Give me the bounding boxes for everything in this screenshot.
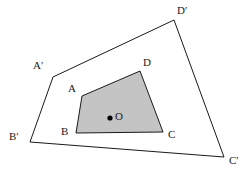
geometry-figure: A′ B′ C′ D′ A B C D O — [0, 0, 246, 175]
vertex-label-a: A — [68, 83, 76, 94]
vertex-label-c-prime: C′ — [229, 155, 239, 166]
vertex-label-d: D — [143, 57, 151, 68]
center-point-label-o: O — [115, 111, 123, 122]
figure-canvas — [0, 0, 246, 175]
vertex-label-b: B — [61, 126, 68, 137]
vertex-label-a-prime: A′ — [33, 60, 43, 71]
vertex-label-c: C — [168, 129, 175, 140]
vertex-label-b-prime: B′ — [9, 131, 19, 142]
vertex-label-d-prime: D′ — [177, 5, 187, 16]
center-point-o-dot — [107, 115, 112, 120]
inner-quadrilateral — [76, 71, 163, 133]
